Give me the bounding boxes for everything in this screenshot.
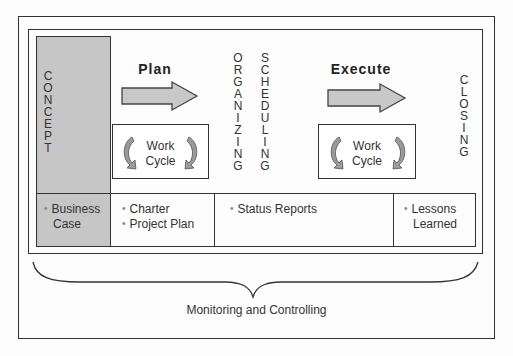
deliverable-item-cont: Case <box>44 217 110 232</box>
plan-work-cycle-label: Work Cycle <box>113 139 208 169</box>
deliverable-closing: Lessons Learned <box>395 193 475 247</box>
deliverable-item: Lessons <box>404 202 475 217</box>
work-cycle-line2: Cycle <box>113 154 208 169</box>
concept-label: C O N C E P T <box>41 70 55 154</box>
organizing-label: O R G A N I Z I N G <box>231 52 245 172</box>
deliverable-item: Status Reports <box>230 202 393 217</box>
deliverable-execute: Status Reports <box>216 193 393 247</box>
monitoring-controlling-label: Monitoring and Controlling <box>0 303 513 317</box>
divider <box>393 193 394 247</box>
deliverable-item: Project Plan <box>122 217 214 232</box>
cycle-arrow-right-icon <box>389 135 409 171</box>
execute-work-cycle-box: Work Cycle <box>318 124 416 179</box>
execute-arrow-icon <box>326 82 408 114</box>
deliverable-concept: Business Case <box>38 193 110 247</box>
scheduling-label: S C H E D U L I N G <box>258 52 272 172</box>
closing-label: C L O S I N G <box>457 74 471 158</box>
deliverable-item-cont: Learned <box>404 217 475 232</box>
plan-title: Plan <box>125 61 185 77</box>
plan-arrow-icon <box>120 80 200 112</box>
deliverable-plan: Charter Project Plan <box>112 193 214 247</box>
work-cycle-line1: Work <box>113 139 208 154</box>
divider <box>214 193 215 247</box>
curly-brace-icon <box>0 255 513 305</box>
deliverable-item: Charter <box>122 202 214 217</box>
execute-title: Execute <box>321 61 401 77</box>
deliverable-item: Business <box>44 202 110 217</box>
divider <box>110 193 111 247</box>
plan-work-cycle-box: Work Cycle <box>112 124 209 179</box>
